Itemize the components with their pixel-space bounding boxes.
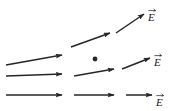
field-arrow [71, 33, 110, 47]
field-label-bottom: E [156, 97, 163, 108]
field-arrow [6, 74, 62, 76]
point-charge-marker [93, 57, 98, 62]
vector-arrow-icon [156, 93, 164, 97]
field-arrow [6, 55, 62, 65]
vector-arrow-icon [154, 53, 162, 57]
vector-arrow-icon [148, 8, 156, 12]
field-arrow [116, 14, 144, 33]
field-label-top-text: E [148, 12, 155, 23]
field-line-canvas [0, 0, 172, 111]
field-arrow [74, 69, 114, 76]
electric-field-figure: E E E [0, 0, 172, 111]
point-charge-group [93, 57, 98, 62]
field-label-middle: E [154, 57, 161, 68]
field-label-middle-text: E [154, 57, 161, 68]
field-arrow [122, 58, 150, 69]
field-arrow-group [6, 14, 152, 95]
field-label-top: E [148, 12, 155, 23]
field-label-bottom-text: E [156, 97, 163, 108]
